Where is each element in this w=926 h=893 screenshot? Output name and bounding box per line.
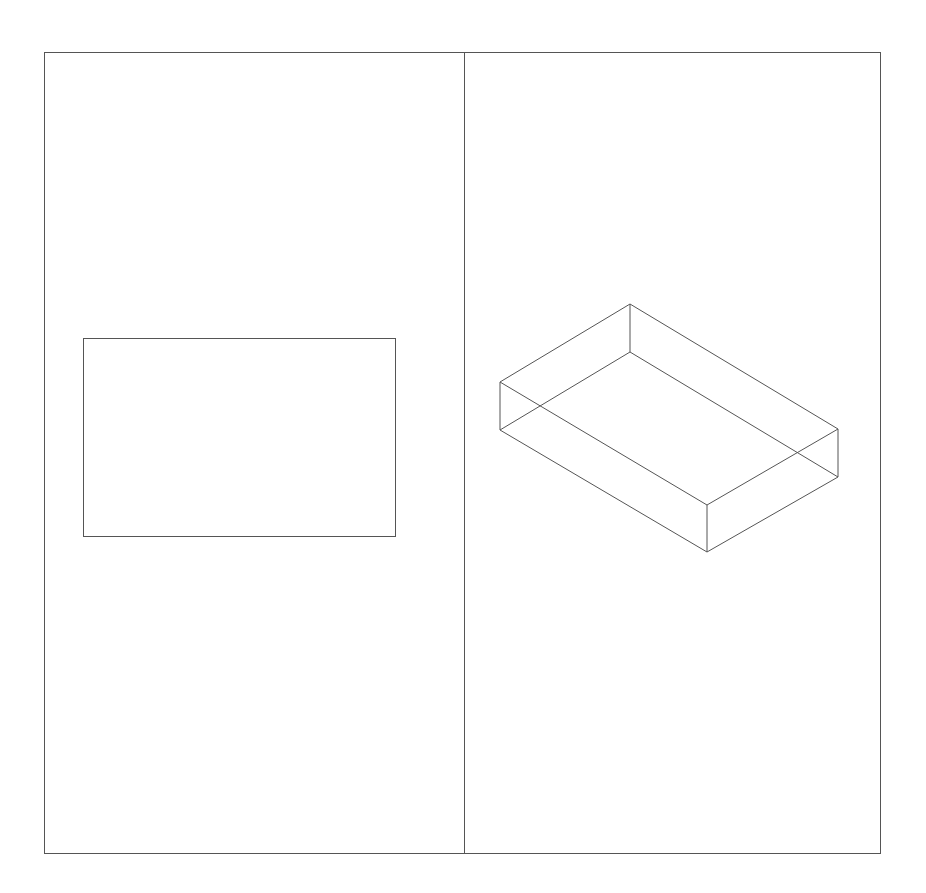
box-top-edge [707,429,838,505]
left-panel-top-view [84,339,396,537]
box-bottom-edge [500,352,630,430]
box-top-edge [630,304,838,429]
top-view-rectangle [84,339,396,537]
box-top-edge [500,304,630,382]
box-bottom-edge [500,430,707,552]
box-bottom-edge [630,352,838,477]
outer-frame [45,53,881,854]
box-top-edge [500,382,707,505]
box-bottom-edge [707,477,838,552]
right-panel-isometric-box [500,304,838,552]
diagram-canvas [0,0,926,893]
